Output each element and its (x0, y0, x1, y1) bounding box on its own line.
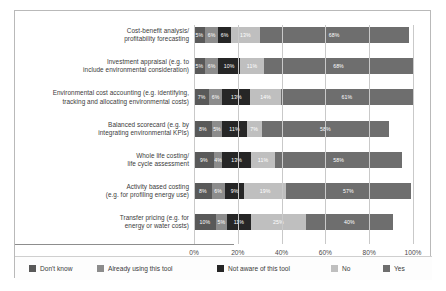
legend-label: Not aware of this tool (228, 265, 290, 272)
bar-segment: 40% (306, 214, 394, 230)
bar-segment: 8% (194, 121, 212, 137)
category-label-line: include environmental consideration) (20, 66, 189, 74)
x-tick-label: 100% (405, 249, 422, 256)
x-tick-label: 80% (363, 249, 376, 256)
bar-segment: 25% (251, 214, 306, 230)
gridline-40pct (282, 25, 283, 244)
category-label-line: Cost-benefit analysis/ (20, 27, 189, 35)
bar-segment: 6% (209, 89, 222, 105)
bar-segment-label: 4% (214, 157, 222, 163)
chart-legend: Don't knowAlready using this toolNot awa… (15, 256, 432, 280)
bar-segment-label: 57% (343, 188, 354, 194)
bar-segment-label: 14% (260, 94, 271, 100)
category-label-line: Investment appraisal (e.g. to (20, 58, 189, 66)
bar-segment-label: 68% (329, 32, 340, 38)
bar-segment-label: 9% (200, 157, 208, 163)
plot-area: Cost-benefit analysis/profitability fore… (15, 11, 432, 279)
bar-segment: 6% (205, 27, 218, 43)
bar-segment: 6% (205, 58, 218, 74)
bar-segment: 9% (194, 152, 214, 168)
category-label-line: tracking and allocating environmental co… (20, 97, 189, 105)
legend-item[interactable]: Don't know (29, 265, 72, 272)
gridline-60pct (325, 25, 326, 244)
legend-label: Yes (394, 265, 405, 272)
bar-segment: 9% (225, 183, 245, 199)
category-label: Activity based costing(e.g. for profilin… (20, 183, 194, 199)
bar-segment-label: 6% (214, 188, 222, 194)
bar-segment-label: 11% (247, 63, 257, 69)
category-labels-column: Cost-benefit analysis/profitability fore… (15, 11, 194, 279)
legend-color-swatch-icon (217, 265, 224, 272)
bar-segment-label: 11% (258, 157, 268, 163)
bar-segment: 10% (218, 58, 240, 74)
x-tick-label: 0% (189, 249, 199, 256)
legend-item[interactable]: Not aware of this tool (217, 265, 290, 272)
bar-segment: 5% (194, 58, 205, 74)
category-label-line: Environmental cost accounting (e.g. iden… (20, 89, 189, 97)
category-label: Transfer pricing (e.g. forenergy or wate… (20, 214, 194, 230)
bar-segment: 8% (194, 183, 212, 199)
legend-color-swatch-icon (97, 265, 104, 272)
bar-segment-label: 5% (196, 63, 204, 69)
category-label: Balanced scorecard (e.g. byintegrating e… (20, 120, 194, 136)
bar-segment-label: 5% (213, 126, 221, 132)
bar-segment: 5% (212, 121, 223, 137)
bar-segment: 11% (251, 152, 275, 168)
bar-segment: 10% (194, 214, 216, 230)
gridline-80pct (369, 25, 370, 244)
legend-item[interactable]: No (331, 265, 350, 272)
bar-segment: 13% (222, 152, 250, 168)
x-tick-label: 20% (231, 249, 244, 256)
bar-segment-label: 7% (198, 94, 206, 100)
bar-segment: 4% (214, 152, 223, 168)
bar-segment-label: 6% (212, 94, 220, 100)
bar-segment: 57% (286, 183, 411, 199)
bars-column: 5%6%6%13%68%5%6%10%11%68%7%6%13%14%61%8%… (194, 11, 413, 279)
stacked-bar-row: 7%6%13%14%61% (194, 89, 413, 105)
legend-color-swatch-icon (383, 265, 390, 272)
gridline-0pct (194, 25, 195, 244)
category-label-line: Balanced scorecard (e.g. by (20, 120, 189, 128)
bar-segment-label: 19% (260, 188, 271, 194)
bar-segment-label: 6% (208, 63, 216, 69)
gridline-20pct (238, 25, 239, 244)
gridline-100pct (413, 25, 414, 244)
bar-segment: 6% (218, 27, 231, 43)
bar-segment-label: 6% (208, 32, 216, 38)
category-label: Whole life costing/life cycle assessment (20, 152, 194, 168)
bar-segment-label: 13% (231, 157, 242, 163)
bar-segment: 6% (212, 183, 225, 199)
category-label: Environmental cost accounting (e.g. iden… (20, 89, 194, 105)
stacked-bar-row: 9%4%13%11%58% (194, 152, 413, 168)
category-label: Investment appraisal (e.g. toinclude env… (20, 58, 194, 74)
bar-segment: 7% (194, 89, 209, 105)
bar-segment-label: 40% (344, 219, 355, 225)
stacked-bar-row: 5%6%10%11%68% (194, 58, 413, 74)
legend-item[interactable]: Already using this tool (97, 265, 173, 272)
category-label-line: life cycle assessment (20, 160, 189, 168)
category-label-line: Whole life costing/ (20, 152, 189, 160)
bar-segment-label: 8% (199, 188, 207, 194)
legend-label: Already using this tool (108, 265, 173, 272)
stacked-bar-row: 5%6%6%13%68% (194, 27, 413, 43)
legend-color-swatch-icon (29, 265, 36, 272)
bar-segment: 5% (194, 27, 205, 43)
category-label-line: integrating environmental KPIs) (20, 129, 189, 137)
bar-segment-label: 11% (234, 219, 244, 225)
bar-segment: 61% (281, 89, 413, 105)
x-tick-label: 40% (275, 249, 288, 256)
bar-segment-label: 8% (199, 126, 207, 132)
bar-segment-label: 13% (231, 94, 242, 100)
bar-segment-label: 6% (221, 32, 229, 38)
category-label-line: energy or water costs) (20, 222, 189, 230)
bar-segment-label: 68% (333, 63, 344, 69)
category-label-line: Transfer pricing (e.g. for (20, 214, 189, 222)
bar-segment: 58% (275, 152, 402, 168)
legend-item[interactable]: Yes (383, 265, 405, 272)
x-axis-line (15, 244, 234, 245)
category-label-line: profitability forecasting (20, 35, 189, 43)
bar-segment-label: 10% (224, 63, 235, 69)
bar-segment: 13% (222, 89, 250, 105)
bar-segment: 11% (222, 121, 246, 137)
bar-segment: 7% (247, 121, 262, 137)
